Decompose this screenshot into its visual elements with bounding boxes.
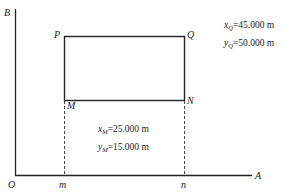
- point-m-label: M: [67, 101, 75, 111]
- m-x-coordinate: xM=25.000 m: [98, 124, 149, 137]
- origin-label: O: [8, 180, 15, 190]
- point-p-label: P: [54, 30, 60, 40]
- q-y-coordinate: yQ=50.000 m: [224, 38, 274, 51]
- axis-b-label: B: [4, 8, 10, 18]
- axis-a-label: A: [255, 171, 261, 181]
- point-n-label: N: [187, 96, 194, 106]
- point-q-label: Q: [187, 30, 194, 40]
- value: =45.000 m: [233, 20, 274, 30]
- point-m-foot-label: m: [59, 180, 66, 190]
- q-x-coordinate: xQ=45.000 m: [224, 20, 274, 33]
- value: =25.000 m: [108, 124, 149, 134]
- value: =50.000 m: [233, 38, 274, 48]
- point-n-foot-label: n: [181, 180, 186, 190]
- rectangle-pqnm: [65, 37, 185, 101]
- m-y-coordinate: yM=15.000 m: [98, 142, 149, 155]
- value: =15.000 m: [108, 142, 149, 152]
